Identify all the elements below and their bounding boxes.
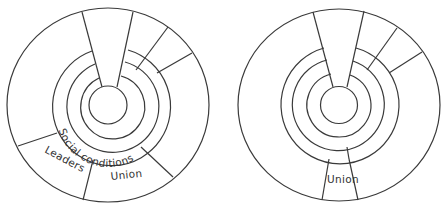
left-concentric-diagram: Social conditions Leaders Union [7, 8, 209, 202]
left-union-label: Union [110, 167, 143, 182]
left-outer-circle [7, 8, 209, 202]
right-wedge-left-line [313, 12, 333, 87]
left-lower-right-line [141, 147, 173, 177]
right-union-label: Union [327, 173, 359, 185]
diagram-canvas: Social conditions Leaders Union Union [0, 0, 443, 214]
left-wedge-right-line [117, 12, 133, 87]
right-ring-2 [307, 74, 371, 137]
right-union-inner-divider [347, 147, 349, 159]
left-ring-1 [89, 86, 127, 124]
right-upper-right-line-2 [389, 52, 422, 73]
right-concentric-diagram: Union [238, 9, 440, 201]
right-wedge-right-line [347, 11, 364, 87]
right-ring-4 [281, 48, 399, 164]
left-wedge-left-line [82, 12, 102, 87]
left-upper-right-line-2 [157, 53, 192, 73]
left-ring-2 [81, 76, 145, 139]
right-ring-1 [321, 87, 358, 124]
